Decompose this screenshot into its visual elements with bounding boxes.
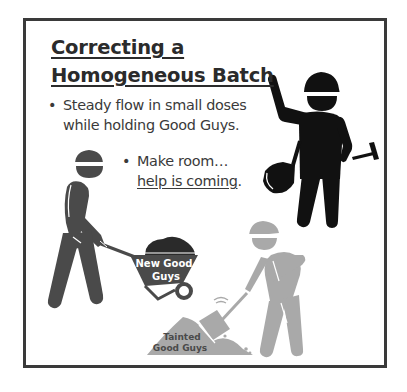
bullet-steady-flow: • Steady flow in small doses while holdi… <box>63 95 283 135</box>
slide-frame: New Good Guys <box>23 18 387 368</box>
pile-label-line2: Good Guys <box>153 343 207 353</box>
worker-shoveling-icon <box>199 221 305 357</box>
bullet-dot: • <box>48 95 56 115</box>
slide-title: Correcting a Homogeneous Batch <box>51 34 331 90</box>
help-is-coming-link[interactable]: help is coming <box>137 173 238 189</box>
worker-wheelbarrow-icon <box>48 150 143 308</box>
wheelbarrow-label-line1: New Good <box>136 258 193 269</box>
bullet-text: Make room… <box>137 153 228 169</box>
pile-label-line1: Tainted <box>163 332 200 342</box>
wheelbarrow-label-line2: Guys <box>152 271 180 282</box>
wheelbarrow: New Good Guys <box>130 237 199 299</box>
bullet-suffix: . <box>238 173 242 189</box>
bullet-make-room: • Make room… help is coming. <box>137 151 277 191</box>
dirt-pile-icon: Tainted Good Guys <box>147 317 253 355</box>
bullet-text: Steady flow in small doses while holding… <box>63 97 246 133</box>
dirt-load <box>145 237 195 255</box>
bullet-dot: • <box>122 151 130 171</box>
hammer-icon <box>352 142 379 160</box>
